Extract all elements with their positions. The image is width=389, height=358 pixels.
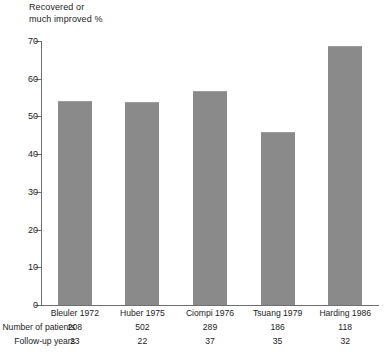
category-label: Ciompi 1976 <box>186 308 234 318</box>
patients-value: 289 <box>203 322 217 332</box>
row-label-followup: Follow-up years <box>14 336 75 346</box>
followup-value: 23 <box>70 336 80 346</box>
category-label: Harding 1986 <box>319 308 371 318</box>
table-row-categories: Bleuler 1972Huber 1975Ciompi 1976Tsuang … <box>0 308 389 322</box>
patients-value: 208 <box>68 322 82 332</box>
bar <box>58 101 92 305</box>
row-label-patients: Number of patients <box>2 322 75 332</box>
bar-chart: Recovered or much improved % 01020304050… <box>0 0 389 358</box>
followup-value: 35 <box>273 336 283 346</box>
bar <box>125 102 159 305</box>
patients-value: 186 <box>270 322 284 332</box>
followup-value: 37 <box>205 336 215 346</box>
y-tick-label: 20 <box>28 225 38 235</box>
y-tick-label: 70 <box>28 36 38 46</box>
bar <box>328 46 362 305</box>
table-row-followup: Follow-up years 2322373532 <box>0 336 389 350</box>
table-row-patients: Number of patients 208502289186118 <box>0 322 389 336</box>
y-tick-label: 10 <box>28 262 38 272</box>
patients-value: 118 <box>338 322 352 332</box>
bar <box>261 132 295 305</box>
bar <box>193 91 227 305</box>
y-axis-line <box>41 41 42 305</box>
category-label: Huber 1975 <box>120 308 165 318</box>
y-tick-label: 40 <box>28 149 38 159</box>
category-label: Tsuang 1979 <box>253 308 302 318</box>
y-tick-label: 60 <box>28 74 38 84</box>
followup-value: 22 <box>138 336 148 346</box>
patients-value: 502 <box>135 322 149 332</box>
data-table: Bleuler 1972Huber 1975Ciompi 1976Tsuang … <box>0 308 389 350</box>
y-tick-label: 30 <box>28 187 38 197</box>
x-axis-line <box>41 305 379 306</box>
y-axis-title: Recovered or much improved % <box>29 2 103 25</box>
category-label: Bleuler 1972 <box>51 308 99 318</box>
plot-area: 010203040506070 <box>41 41 379 305</box>
y-tick-label: 50 <box>28 111 38 121</box>
followup-value: 32 <box>340 336 350 346</box>
